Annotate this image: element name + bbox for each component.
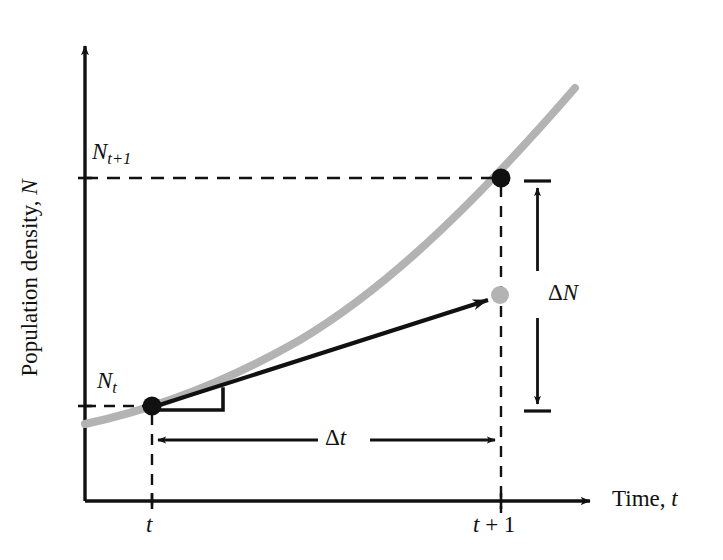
delta-n-var: N	[563, 280, 578, 305]
delta-n-label: ΔN	[548, 281, 578, 304]
x-axis-title-main: Time,	[612, 486, 665, 511]
nt1-base: N	[92, 139, 107, 164]
figure-canvas	[0, 0, 723, 560]
y-tick-label-nt-plus-1: Nt+1	[92, 140, 131, 167]
secant-rate-arrow	[153, 300, 488, 407]
x-axis-title-var: t	[671, 486, 677, 511]
nt1-subscript: t+1	[107, 149, 131, 168]
nt-base: N	[97, 368, 112, 393]
nt-subscript: t	[112, 378, 117, 397]
y-tick-label-nt: Nt	[97, 369, 117, 396]
delta-t-symbol: Δ	[325, 425, 340, 450]
x-axis-title: Time, t	[612, 487, 678, 510]
delta-n-measure	[524, 181, 551, 411]
point-secant-end	[491, 286, 509, 304]
delta-n-symbol: Δ	[548, 280, 563, 305]
x-tick-label-t-plus-1: t + 1	[473, 513, 515, 536]
point-nt-plus-1	[492, 169, 511, 188]
point-nt	[143, 397, 162, 416]
x-tick-label-t: t	[146, 513, 152, 536]
delta-t-var: t	[340, 425, 346, 450]
y-axis-title: Population density, N	[14, 148, 44, 408]
data-point-markers	[143, 169, 511, 416]
y-axis-title-var: N	[17, 179, 42, 194]
y-axis-title-main: Population density,	[17, 200, 42, 376]
tick-t1-rest: + 1	[479, 512, 515, 537]
delta-t-label: Δt	[318, 426, 353, 449]
population-growth-figure: Population density, N Time, t Nt+1 Nt ΔN…	[0, 0, 723, 560]
tick-t-text: t	[146, 512, 152, 537]
